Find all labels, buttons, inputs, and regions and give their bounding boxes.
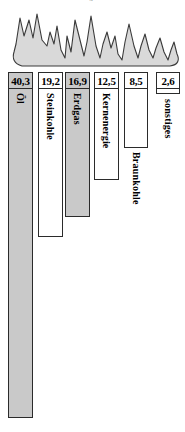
bar-braunkohle[interactable]: 8,5 xyxy=(124,72,148,148)
bar-oel-label: Öl xyxy=(15,93,26,104)
bar-braunkohle-value: 8,5 xyxy=(124,72,148,89)
bar-erdgas-value: 16,9 xyxy=(65,72,90,89)
bar-oel-value: 40,3 xyxy=(8,72,33,89)
bar-erdgas-label-wrap: Erdgas xyxy=(66,93,89,125)
bar-braunkohle-label: Braunkohle xyxy=(131,152,142,205)
bar-kernenergie-label-wrap: Kernenergie xyxy=(95,93,118,149)
bar-steinkohle-label-wrap: Steinkohle xyxy=(39,93,62,140)
bar-steinkohle-label: Steinkohle xyxy=(45,93,56,140)
bar-sonstiges-value: 2,6 xyxy=(156,72,180,89)
bar-oel-label-wrap: Öl xyxy=(9,93,32,104)
bar-sonstiges-label-wrap: sonstiges xyxy=(156,99,180,139)
bar-kernenergie-value: 12,5 xyxy=(94,72,119,89)
bar-erdgas-label: Erdgas xyxy=(72,93,83,125)
bar-steinkohle[interactable]: 19,2 Steinkohle xyxy=(38,72,63,237)
bar-oel[interactable]: 40,3 Öl xyxy=(8,72,33,418)
bar-series: 40,3 Öl 19,2 Steinkohle 16,9 Erdgas 12,5… xyxy=(0,0,185,432)
bar-erdgas[interactable]: 16,9 Erdgas xyxy=(65,72,90,217)
bar-sonstiges[interactable]: 2,6 xyxy=(156,72,180,94)
bar-kernenergie-label: Kernenergie xyxy=(101,93,112,149)
energy-mix-chart: Primärenergieverbrauch 40,3 Öl 19,2 Stei… xyxy=(0,0,185,432)
bar-braunkohle-label-wrap: Braunkohle xyxy=(124,152,148,205)
bar-sonstiges-label: sonstiges xyxy=(163,99,174,139)
bar-steinkohle-value: 19,2 xyxy=(38,72,63,89)
bar-kernenergie[interactable]: 12,5 Kernenergie xyxy=(94,72,119,180)
